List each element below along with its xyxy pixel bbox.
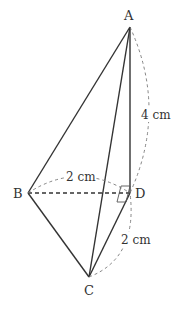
label-CD-length: 2 cm	[121, 233, 151, 247]
vertex-label-A: A	[123, 8, 134, 23]
right-angle-marker	[117, 186, 130, 202]
edge-BC	[28, 193, 89, 277]
vertex-label-C: C	[84, 283, 94, 298]
label-AD-length: 4 cm	[141, 108, 171, 122]
vertex-label-D: D	[135, 186, 145, 201]
pyramid-diagram: 4 cm 2 cm 2 cm A B C D	[0, 0, 172, 312]
vertex-label-B: B	[13, 186, 23, 201]
edge-AB	[28, 27, 130, 193]
label-BD-length: 2 cm	[66, 170, 96, 184]
